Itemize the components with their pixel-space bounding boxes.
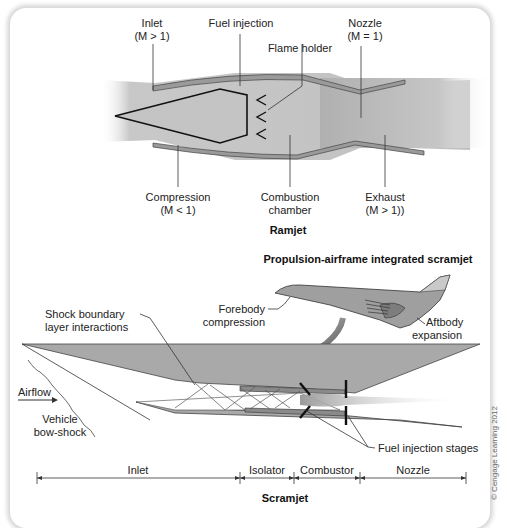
shock-leader-tick xyxy=(140,314,150,318)
label-forebody: Forebody xyxy=(219,303,266,315)
label-vehicle: Vehicle xyxy=(42,413,77,425)
scramjet-diagram: Airflow Vehicle bow-shock Shock boundary… xyxy=(18,308,480,504)
label-airflow: Airflow xyxy=(18,386,51,398)
scramjet-forebody xyxy=(22,344,480,393)
section-nozzle: Nozzle xyxy=(396,464,430,476)
label-aftbody-expansion: expansion xyxy=(412,329,462,341)
label-nozzle-mach: (M = 1) xyxy=(347,30,382,42)
ramjet-title: Ramjet xyxy=(270,224,307,236)
label-compression-mach: (M < 1) xyxy=(160,204,195,216)
label-flame-holder: Flame holder xyxy=(268,42,333,54)
section-inlet: Inlet xyxy=(128,464,149,476)
vehicle-body xyxy=(275,275,450,328)
label-nozzle: Nozzle xyxy=(348,17,382,29)
section-isolator: Isolator xyxy=(249,464,285,476)
exhaust-plume xyxy=(300,394,470,407)
ramjet-diagram: Inlet (M > 1) Fuel injection Flame holde… xyxy=(100,17,490,236)
airflow-arrow-head xyxy=(52,397,58,403)
label-forebody-compression: compression xyxy=(203,316,265,328)
label-exhaust: Exhaust xyxy=(365,191,405,203)
section-combustor: Combustor xyxy=(300,464,354,476)
label-compression: Compression xyxy=(146,191,211,203)
copyright-notice: © Cengage Learning 2012 xyxy=(490,406,499,500)
vehicle-title: Propulsion-airframe integrated scramjet xyxy=(263,253,472,265)
scramjet-title: Scramjet xyxy=(262,492,309,504)
label-bow-shock: bow-shock xyxy=(34,426,87,438)
label-fuel-injection: Fuel injection xyxy=(209,17,274,29)
label-fuel-injection-stages: Fuel injection stages xyxy=(378,442,479,454)
label-layer-interactions: layer interactions xyxy=(45,321,129,333)
label-shock-boundary: Shock boundary xyxy=(45,308,125,320)
label-chamber: chamber xyxy=(269,204,312,216)
label-inlet: Inlet xyxy=(142,17,163,29)
label-inlet-mach: (M > 1) xyxy=(134,30,169,42)
label-aftbody: Aftbody xyxy=(426,316,464,328)
label-exhaust-mach: (M > 1)) xyxy=(366,204,405,216)
label-combustion: Combustion xyxy=(261,191,320,203)
